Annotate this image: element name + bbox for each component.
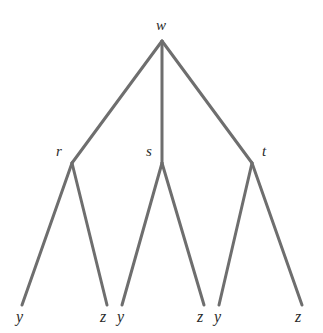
tree-edge-t-y xyxy=(219,163,252,305)
leaf-node-label-leaf1: y xyxy=(16,309,23,325)
leaf-node-label-leaf5: y xyxy=(214,309,221,325)
tree-edge-r-y xyxy=(22,163,72,305)
internal-node-label-r: r xyxy=(56,144,62,159)
tree-diagram-canvas: wrstyzyzyz xyxy=(0,0,323,333)
internal-node-label-t: t xyxy=(262,144,266,159)
tree-edge-s-z xyxy=(162,163,204,305)
edge-group xyxy=(22,41,302,305)
leaf-node-label-leaf4: z xyxy=(197,309,203,325)
tree-edges-layer xyxy=(0,0,323,333)
tree-edge-s-y xyxy=(122,163,162,305)
leaf-node-label-leaf2: z xyxy=(100,309,106,325)
root-node-label-w: w xyxy=(156,18,166,33)
tree-edge-t-z xyxy=(252,163,302,305)
tree-edge-r-z xyxy=(72,163,107,305)
tree-edge-w-t xyxy=(162,41,252,163)
leaf-node-label-leaf6: z xyxy=(295,309,301,325)
internal-node-label-s: s xyxy=(146,144,152,159)
leaf-node-label-leaf3: y xyxy=(117,309,124,325)
